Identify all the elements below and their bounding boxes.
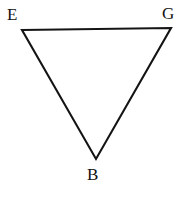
vertex-label-e: E — [7, 6, 17, 23]
vertex-label-g: G — [162, 5, 174, 22]
vertex-label-b: B — [87, 166, 98, 183]
geometry-figure: E G B — [0, 0, 186, 199]
